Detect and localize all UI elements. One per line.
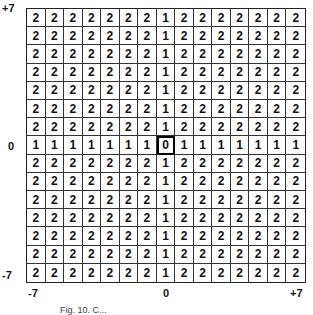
grid-cell: 2 <box>138 64 157 82</box>
grid-cell: 1 <box>157 246 176 264</box>
grid-cell: 2 <box>268 64 287 82</box>
grid-cell: 2 <box>46 82 65 100</box>
grid-cell: 2 <box>249 118 268 136</box>
grid-cell: 2 <box>249 82 268 100</box>
grid-cell: 2 <box>120 82 139 100</box>
grid-cell: 2 <box>212 155 231 173</box>
grid-cell: 2 <box>231 155 250 173</box>
grid-cell: 2 <box>286 100 305 118</box>
grid-cell: 2 <box>120 209 139 227</box>
grid-cell: 2 <box>27 173 46 191</box>
grid-cell: 2 <box>64 9 83 27</box>
grid-cell: 2 <box>27 227 46 245</box>
grid-cell: 2 <box>120 27 139 45</box>
grid-cell: 1 <box>46 136 65 154</box>
grid-cell: 2 <box>286 227 305 245</box>
grid-cell: 2 <box>138 173 157 191</box>
grid-cell: 2 <box>120 45 139 63</box>
grid-cell: 2 <box>120 264 139 282</box>
grid-cell: 1 <box>268 136 287 154</box>
grid-cell: 2 <box>120 227 139 245</box>
grid-cell: 2 <box>120 118 139 136</box>
grid-cell: 2 <box>27 82 46 100</box>
grid-cell: 2 <box>138 227 157 245</box>
grid-cell: 2 <box>120 9 139 27</box>
grid-cell: 2 <box>64 45 83 63</box>
grid-cell: 2 <box>231 191 250 209</box>
grid-cell: 2 <box>101 100 120 118</box>
grid-cell: 1 <box>212 136 231 154</box>
grid-cell: 2 <box>83 209 102 227</box>
grid-cell: 2 <box>83 100 102 118</box>
grid-cell: 1 <box>157 155 176 173</box>
x-axis-left-label: -7 <box>28 287 38 299</box>
grid-cell: 1 <box>249 136 268 154</box>
grid-cell: 2 <box>83 82 102 100</box>
grid-cell: 2 <box>268 227 287 245</box>
grid-cell: 2 <box>83 191 102 209</box>
grid-cell: 2 <box>64 100 83 118</box>
grid-cell: 2 <box>175 264 194 282</box>
grid-cell: 2 <box>212 27 231 45</box>
grid-cell: 2 <box>231 45 250 63</box>
grid-cell: 2 <box>138 209 157 227</box>
grid-cell: 1 <box>157 45 176 63</box>
grid-cell-center: 0 <box>157 136 176 154</box>
x-axis-mid-label: 0 <box>163 287 169 299</box>
grid-cell: 1 <box>157 27 176 45</box>
grid-cell: 2 <box>101 118 120 136</box>
grid-cell: 1 <box>157 64 176 82</box>
grid-cell: 2 <box>212 45 231 63</box>
grid-cell: 2 <box>231 227 250 245</box>
grid-cell: 2 <box>175 100 194 118</box>
grid-cell: 2 <box>231 9 250 27</box>
grid-cell: 2 <box>268 209 287 227</box>
grid-cell: 2 <box>101 209 120 227</box>
grid-cell: 1 <box>157 209 176 227</box>
grid-cell: 2 <box>27 191 46 209</box>
grid-cell: 2 <box>249 27 268 45</box>
grid-cell: 2 <box>249 264 268 282</box>
grid-cell: 2 <box>27 9 46 27</box>
grid-cell: 2 <box>46 9 65 27</box>
grid-cell: 2 <box>231 100 250 118</box>
grid-cell: 2 <box>46 118 65 136</box>
grid-cell: 2 <box>231 264 250 282</box>
grid-cell: 1 <box>157 264 176 282</box>
grid-cell: 2 <box>194 100 213 118</box>
grid-cell: 1 <box>157 191 176 209</box>
grid-cell: 2 <box>64 82 83 100</box>
grid-cell: 2 <box>64 227 83 245</box>
grid-cell: 1 <box>157 82 176 100</box>
grid-cell: 2 <box>212 209 231 227</box>
grid-cell: 2 <box>175 173 194 191</box>
grid-cell: 2 <box>64 246 83 264</box>
grid-cell: 2 <box>212 191 231 209</box>
grid-cell: 2 <box>64 209 83 227</box>
grid-cell: 2 <box>101 246 120 264</box>
grid-cell: 2 <box>194 45 213 63</box>
grid-cell: 1 <box>231 136 250 154</box>
grid-cell: 2 <box>120 155 139 173</box>
grid-cell: 2 <box>286 27 305 45</box>
grid-cell: 2 <box>83 64 102 82</box>
grid-cell: 2 <box>268 9 287 27</box>
grid-cell: 2 <box>286 82 305 100</box>
grid-cell: 2 <box>175 246 194 264</box>
grid-cell: 2 <box>212 246 231 264</box>
grid-cell: 2 <box>268 173 287 191</box>
grid-cell: 2 <box>64 191 83 209</box>
grid-cell: 2 <box>212 173 231 191</box>
grid-cell: 1 <box>157 227 176 245</box>
grid-cell: 2 <box>46 45 65 63</box>
grid-cell: 1 <box>101 136 120 154</box>
grid-cell: 2 <box>83 118 102 136</box>
grid-cell: 2 <box>194 264 213 282</box>
grid-cell: 2 <box>231 246 250 264</box>
y-axis-top-label: +7 <box>2 2 15 14</box>
grid-cell: 2 <box>268 264 287 282</box>
grid-cell: 2 <box>27 118 46 136</box>
grid-cell: 2 <box>101 27 120 45</box>
grid-cell: 2 <box>27 264 46 282</box>
grid-cell: 1 <box>64 136 83 154</box>
